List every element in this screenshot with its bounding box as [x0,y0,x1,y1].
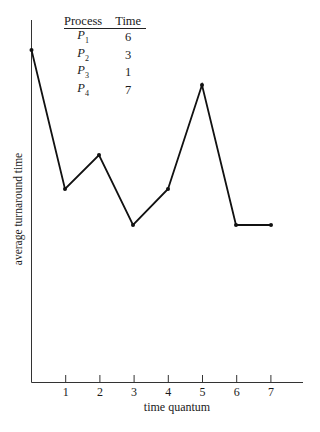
header-process: Process [64,15,107,29]
line-chart [0,0,320,432]
header-time: Time [107,15,146,29]
table-row: P2 3 [64,47,146,65]
process-time: 1 [107,64,146,82]
x-tick-label: 3 [128,385,140,400]
data-point [166,187,170,191]
process-index: 4 [85,88,89,97]
x-axis-label: time quantum [117,400,237,415]
x-tick-label: 5 [197,385,209,400]
data-point [269,223,273,227]
process-index: 2 [85,53,89,62]
process-time: 3 [107,47,146,65]
table-row: P1 6 [64,29,146,47]
x-tick-label: 7 [265,385,277,400]
x-tick-label: 4 [162,385,174,400]
process-name: P [77,81,85,95]
table-row: P4 7 [64,82,146,100]
process-index: 1 [85,36,89,45]
process-time: 6 [107,29,146,47]
data-point [30,48,34,52]
data-point [131,223,135,227]
data-point [97,153,101,157]
data-point [234,223,238,227]
process-name: P [77,28,85,42]
x-ticks [66,375,271,383]
process-name: P [77,46,85,60]
process-index: 3 [85,71,89,80]
process-time: 7 [107,82,146,100]
x-tick-label: 1 [60,385,72,400]
x-tick-label: 6 [231,385,243,400]
data-point [63,187,67,191]
process-table: Process Time P1 6 P2 3 P3 1 P4 7 [64,15,146,99]
y-axis-label: average turnaround time [12,149,24,269]
data-point [200,83,204,87]
table-row: P3 1 [64,64,146,82]
x-tick-label: 2 [94,385,106,400]
process-name: P [77,63,85,77]
